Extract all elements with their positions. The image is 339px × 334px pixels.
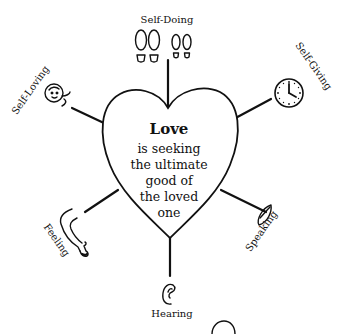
spoke-self-loving — [72, 108, 106, 124]
clock-icon — [275, 79, 303, 107]
center-line: the loved — [140, 189, 198, 204]
label-self-doing: Self-Doing — [141, 14, 194, 25]
center-line: is seeking — [137, 141, 200, 156]
partial-icon — [212, 321, 235, 334]
spoke-speaking — [221, 190, 266, 212]
center-line: one — [158, 205, 181, 220]
label-hearing: Hearing — [151, 308, 193, 319]
center-title: Love — [150, 120, 189, 138]
label-feeling: Feeling — [42, 221, 73, 258]
center-line: good of — [145, 173, 194, 188]
label-speaking: Speaking — [243, 208, 279, 253]
ear-icon — [163, 284, 175, 304]
love-diagram: Love is seeking the ultimate good of the… — [0, 0, 339, 334]
footprints-icon — [136, 30, 192, 62]
center-line: the ultimate — [130, 157, 207, 172]
face-icon — [45, 84, 70, 106]
spoke-feeling — [85, 190, 118, 212]
